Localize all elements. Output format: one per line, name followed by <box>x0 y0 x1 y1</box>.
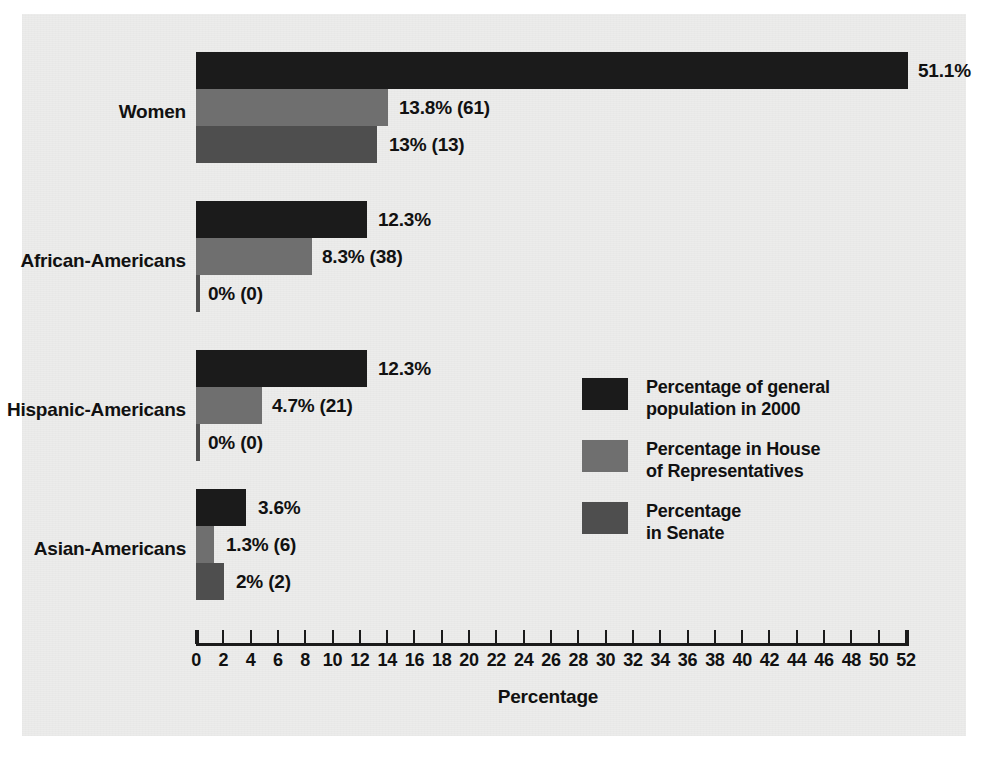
legend-item-general-population: Percentage of general population in 2000 <box>582 376 830 420</box>
legend-swatch-icon-general-population <box>582 378 628 410</box>
category-label-hispanic-americans: Hispanic-Americans <box>7 399 186 421</box>
category-label-asian-americans: Asian-Americans <box>34 538 186 560</box>
x-axis-tick <box>413 630 415 644</box>
bar-value-hispanic-americans-senate: 0% (0) <box>208 432 263 454</box>
bar-women-house <box>196 89 388 126</box>
x-axis-tick <box>468 630 470 644</box>
legend-label-general-population: Percentage of general population in 2000 <box>646 376 830 420</box>
x-axis-tick <box>523 630 525 644</box>
bar-value-african-americans-senate: 0% (0) <box>208 283 263 305</box>
bar-hispanic-americans-general <box>196 350 367 387</box>
x-axis-tick-label: 20 <box>459 650 478 671</box>
chart-legend: Percentage of general population in 2000… <box>582 376 830 562</box>
x-axis-tick-label: 42 <box>760 650 779 671</box>
legend-item-house: Percentage in House of Representatives <box>582 438 830 482</box>
bar-asian-americans-house <box>196 526 214 563</box>
x-axis-tick <box>386 630 388 644</box>
bar-value-african-americans-general: 12.3% <box>378 209 431 231</box>
bar-value-hispanic-americans-house: 4.7% (21) <box>272 395 353 417</box>
x-axis-tick-label: 18 <box>432 650 451 671</box>
bar-african-americans-general <box>196 201 367 238</box>
bar-value-women-general: 51.1% <box>918 60 971 82</box>
legend-swatch-icon-house <box>582 440 628 472</box>
x-axis-tick-label: 2 <box>218 650 228 671</box>
x-axis-tick <box>277 630 279 644</box>
x-axis-tick <box>605 630 607 644</box>
x-axis-tick-label: 36 <box>678 650 697 671</box>
x-axis-tick-label: 8 <box>300 650 310 671</box>
x-axis-tick <box>823 630 825 644</box>
x-axis-tick-label: 32 <box>623 650 642 671</box>
x-axis-tick-label: 46 <box>814 650 833 671</box>
legend-label-line-1: Percentage <box>646 500 741 522</box>
x-axis-tick-label: 50 <box>869 650 888 671</box>
x-axis-tick-label: 26 <box>541 650 560 671</box>
x-axis-tick <box>741 630 743 644</box>
x-axis-tick <box>632 630 634 644</box>
x-axis-tick-label: 34 <box>651 650 670 671</box>
x-axis-tick <box>577 630 579 644</box>
bar-value-asian-americans-house: 1.3% (6) <box>226 534 296 556</box>
x-axis-tick-label: 48 <box>842 650 861 671</box>
x-axis-tick-label: 38 <box>705 650 724 671</box>
x-axis-tick-label: 14 <box>377 650 396 671</box>
x-axis-tick <box>304 630 306 644</box>
x-axis-tick <box>878 630 880 644</box>
x-axis-tick-label: 0 <box>191 650 201 671</box>
x-axis-tick <box>550 630 552 644</box>
x-axis-tick <box>796 630 798 644</box>
bar-women-senate <box>196 126 377 163</box>
legend-item-senate: Percentage in Senate <box>582 500 830 544</box>
x-axis-tick <box>768 630 770 644</box>
x-axis-tick-label: 28 <box>569 650 588 671</box>
x-axis-tick <box>332 630 334 644</box>
bar-value-hispanic-americans-general: 12.3% <box>378 358 431 380</box>
legend-label-line-1: Percentage in House <box>646 438 820 460</box>
bar-women-general <box>196 52 908 89</box>
x-axis-tick <box>222 630 224 644</box>
legend-label-line-2: of Representatives <box>646 460 820 482</box>
x-axis-tick <box>359 630 361 644</box>
bar-african-americans-house <box>196 238 312 275</box>
legend-label-line-2: population in 2000 <box>646 398 830 420</box>
x-axis-tick-label: 40 <box>732 650 751 671</box>
legend-label-line-1: Percentage of general <box>646 376 830 398</box>
x-axis-tick-label: 16 <box>405 650 424 671</box>
bar-african-americans-senate <box>196 275 200 312</box>
bar-value-asian-americans-general: 3.6% <box>258 497 301 519</box>
bar-asian-americans-senate <box>196 563 224 600</box>
x-axis-line <box>196 643 908 646</box>
x-axis-title: Percentage <box>398 686 698 708</box>
x-axis-tick <box>495 630 497 644</box>
x-axis-tick-label: 24 <box>514 650 533 671</box>
category-label-women: Women <box>119 101 186 123</box>
x-axis-tick <box>195 630 197 644</box>
legend-swatch-icon-senate <box>582 502 628 534</box>
x-axis-tick-label: 30 <box>596 650 615 671</box>
x-axis-tick <box>687 630 689 644</box>
legend-label-house: Percentage in House of Representatives <box>646 438 820 482</box>
chart-page: Women African-Americans Hispanic-America… <box>0 0 1004 764</box>
grouped-bar-chart: Women African-Americans Hispanic-America… <box>0 0 1004 764</box>
x-axis-tick-label: 4 <box>246 650 256 671</box>
x-axis-tick-label: 12 <box>350 650 369 671</box>
bar-value-asian-americans-senate: 2% (2) <box>236 571 291 593</box>
x-axis-tick-label: 6 <box>273 650 283 671</box>
x-axis-tick <box>441 630 443 644</box>
bar-asian-americans-general <box>196 489 246 526</box>
bar-value-women-senate: 13% (13) <box>389 134 465 156</box>
bar-hispanic-americans-house <box>196 387 262 424</box>
x-axis-tick-label: 52 <box>896 650 915 671</box>
legend-label-senate: Percentage in Senate <box>646 500 741 544</box>
x-axis-tick <box>905 630 907 644</box>
x-axis-tick-label: 44 <box>787 650 806 671</box>
x-axis-tick <box>250 630 252 644</box>
x-axis-tick-label: 10 <box>323 650 342 671</box>
legend-label-line-2: in Senate <box>646 522 741 544</box>
category-label-african-americans: African-Americans <box>20 250 186 272</box>
x-axis-tick <box>850 630 852 644</box>
x-axis-tick <box>659 630 661 644</box>
bar-hispanic-americans-senate <box>196 424 200 461</box>
x-axis-tick <box>714 630 716 644</box>
x-axis-tick-label: 22 <box>487 650 506 671</box>
